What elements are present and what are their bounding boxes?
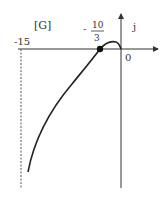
left-marker-label: -15 <box>14 36 30 47</box>
origin-label: 0 <box>125 52 131 63</box>
imag-axis-label: j <box>132 21 136 32</box>
point-label-denominator: 3 <box>94 33 100 43</box>
point-label-sign: - <box>83 23 86 34</box>
crossing-point <box>97 46 103 52</box>
nyquist-diagram: [G] j 0 -15 - 10 3 <box>0 0 162 198</box>
nyquist-curve <box>28 42 121 172</box>
point-label-numerator: 10 <box>92 20 104 30</box>
plane-label: [G] <box>34 19 51 32</box>
